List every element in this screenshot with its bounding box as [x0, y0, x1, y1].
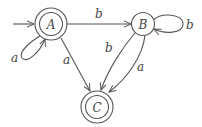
- edge-label-a-a: a: [11, 51, 18, 65]
- state-c-label: C: [92, 101, 101, 115]
- edge-label-b-b: b: [186, 18, 194, 32]
- state-b: B: [132, 13, 155, 36]
- edge-b-b: [153, 15, 183, 32]
- edge-label-b-c-b: b: [105, 41, 113, 55]
- state-c: C: [81, 91, 113, 123]
- state-a: A: [35, 8, 67, 40]
- edge-label-b-c-a: a: [137, 60, 144, 74]
- edge-label-a-c: a: [63, 53, 70, 67]
- state-b-label: B: [138, 18, 148, 32]
- edge-a-a: [21, 36, 45, 60]
- edge-label-a-b: b: [95, 7, 103, 21]
- state-a-label: A: [46, 18, 56, 32]
- automaton-diagram: a b a b b a A B C: [0, 0, 202, 127]
